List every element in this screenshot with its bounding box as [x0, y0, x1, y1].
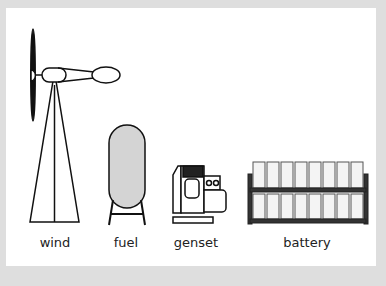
genset-icon — [173, 166, 226, 223]
battery-rack-icon — [248, 162, 368, 224]
wind-label: wind — [15, 235, 95, 250]
wind-turbine-icon — [30, 29, 120, 222]
genset-label: genset — [156, 235, 236, 250]
battery-label: battery — [267, 235, 347, 250]
fuel-label: fuel — [86, 235, 166, 250]
fuel-tank-icon — [109, 125, 145, 225]
